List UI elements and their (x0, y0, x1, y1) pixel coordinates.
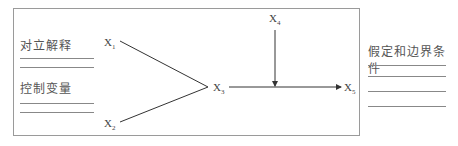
edges-layer (0, 0, 458, 146)
edge-x2-x3 (120, 87, 208, 122)
edge-x1-x3 (120, 41, 208, 87)
